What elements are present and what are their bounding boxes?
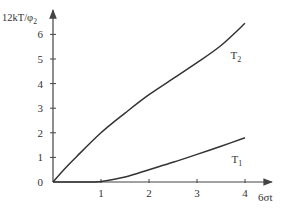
x-tick-label: 1 (98, 187, 104, 199)
y-tick-label: 4 (38, 78, 44, 90)
x-tick-label: 2 (146, 187, 152, 199)
chart: 12340123456 12kT/φ26σtT2T1 (0, 0, 283, 208)
y-axis-label: 12kT/φ2 (2, 12, 37, 26)
series-group (53, 23, 245, 182)
y-tick-label: 5 (38, 53, 44, 65)
x-tick-label: 4 (242, 187, 248, 199)
axes: 12340123456 (38, 10, 273, 199)
series-line-t1 (53, 138, 245, 182)
y-tick-label: 3 (38, 102, 44, 114)
x-tick-label: 3 (194, 187, 200, 199)
series-label-t2: T2 (231, 49, 242, 64)
series-label-t1: T1 (232, 153, 243, 168)
x-axis-label: 6σt (258, 191, 273, 203)
y-tick-label: 0 (38, 176, 44, 188)
y-tick-label: 2 (38, 127, 44, 139)
series-line-t2 (53, 23, 245, 182)
y-tick-label: 1 (38, 151, 44, 163)
y-tick-label: 6 (38, 28, 44, 40)
